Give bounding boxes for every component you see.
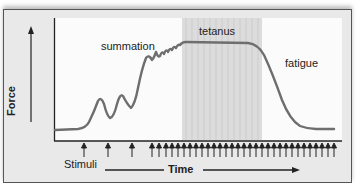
stimulus-arrow-icon [106, 143, 111, 157]
stimuli-arrows [82, 143, 337, 157]
time-arrow-icon [105, 167, 300, 173]
force-axis-label: Force [5, 86, 17, 116]
stimulus-arrow-icon [326, 143, 331, 157]
force-arrow-icon [28, 26, 34, 122]
stimulus-arrow-icon [206, 143, 211, 157]
stimulus-arrow-icon [150, 143, 155, 157]
stimulus-arrow-icon [224, 143, 229, 157]
stimulus-arrow-icon [254, 143, 259, 157]
stimulus-arrow-icon [296, 143, 301, 157]
stimulus-arrow-icon [182, 143, 187, 157]
stimulus-arrow-icon [272, 143, 277, 157]
stimulus-arrow-icon [230, 143, 235, 157]
time-axis-label: Time [168, 163, 193, 175]
stimulus-arrow-icon [302, 143, 307, 157]
stimulus-arrow-icon [260, 143, 265, 157]
stimulus-arrow-icon [236, 143, 241, 157]
stimulus-arrow-icon [314, 143, 319, 157]
summation-label: summation [101, 40, 155, 52]
stimulus-arrow-icon [82, 143, 87, 157]
stimulus-arrow-icon [332, 143, 337, 157]
stimulus-arrow-icon [248, 143, 253, 157]
stimulus-arrow-icon [308, 143, 313, 157]
fatigue-label: fatigue [285, 57, 318, 69]
stimulus-arrow-icon [242, 143, 247, 157]
tetanus-label: tetanus [199, 25, 235, 37]
stimulus-arrow-icon [218, 143, 223, 157]
stimulus-arrow-icon [266, 143, 271, 157]
stimulus-arrow-icon [290, 143, 295, 157]
stimulus-arrow-icon [157, 143, 162, 157]
stimulus-arrow-icon [130, 143, 135, 157]
stimulus-arrow-icon [194, 143, 199, 157]
stimulus-arrow-icon [170, 143, 175, 157]
stimulus-arrow-icon [212, 143, 217, 157]
stimulus-arrow-icon [164, 143, 169, 157]
stimulus-arrow-icon [176, 143, 181, 157]
stimuli-label: Stimuli [64, 158, 97, 170]
stimulus-arrow-icon [200, 143, 205, 157]
stimulus-arrow-icon [278, 143, 283, 157]
stimulus-arrow-icon [320, 143, 325, 157]
diagram-graphics [0, 0, 356, 190]
stimulus-arrow-icon [188, 143, 193, 157]
stimulus-arrow-icon [284, 143, 289, 157]
